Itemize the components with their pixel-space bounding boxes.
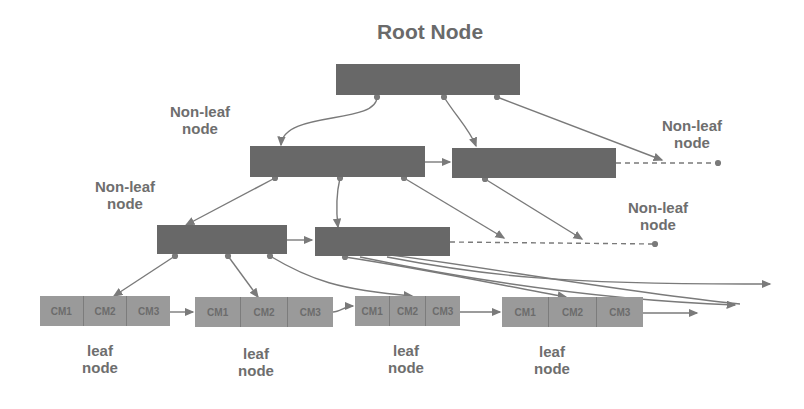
leaf-label-4: leaf node — [522, 343, 582, 378]
leaf-label-2: leaf node — [226, 345, 286, 380]
level3-node-left — [157, 225, 287, 254]
leaf-node-4: CM1 CM2 CM3 — [502, 297, 643, 327]
leaf-cell: CM3 — [426, 296, 460, 326]
level3-node-right — [315, 227, 450, 256]
level2-node-left — [250, 146, 425, 177]
root-node — [336, 64, 520, 95]
leaf-node-1: CM1 CM2 CM3 — [40, 296, 170, 326]
leaf-cell: CM1 — [40, 296, 84, 326]
non-leaf-label-2: Non-leaf node — [85, 178, 165, 213]
leaf-cell: CM3 — [127, 296, 170, 326]
leaf-node-2: CM1 CM2 CM3 — [195, 297, 333, 327]
leaf-cell: CM3 — [288, 297, 333, 327]
non-leaf-label-4: Non-leaf node — [618, 199, 698, 234]
level2-node-right — [452, 148, 616, 178]
leaf-cell: CM2 — [84, 296, 128, 326]
leaf-cell: CM1 — [502, 297, 549, 327]
leaf-label-1: leaf node — [70, 342, 130, 377]
non-leaf-label-1: Non-leaf node — [160, 103, 240, 138]
leaf-cell: CM1 — [355, 296, 390, 326]
non-leaf-label-3: Non-leaf node — [652, 117, 732, 152]
leaf-label-3: leaf node — [376, 342, 436, 377]
leaf-node-3: CM1 CM2 CM3 — [355, 296, 460, 326]
leaf-cell: CM1 — [195, 297, 241, 327]
leaf-cell: CM2 — [549, 297, 596, 327]
leaf-cell: CM3 — [597, 297, 643, 327]
leaf-cell: CM2 — [390, 296, 425, 326]
leaf-cell: CM2 — [241, 297, 287, 327]
